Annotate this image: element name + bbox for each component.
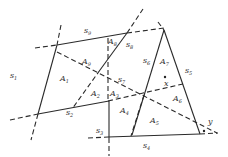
dashed-s4-ext-right <box>200 133 218 134</box>
label-A1: A1 <box>59 74 69 84</box>
label-s5: s5 <box>185 66 192 76</box>
dashed-s8-ext-top <box>127 9 143 33</box>
dashed-s2-ext-left <box>10 114 38 120</box>
label-s3: s3 <box>96 126 103 136</box>
label-point-x: x <box>164 79 169 88</box>
segment-s1 <box>38 45 57 114</box>
label-s6: s6 <box>143 56 151 66</box>
label-A3: A3 <box>109 89 119 99</box>
dashed-s1-ext-top <box>57 25 61 45</box>
label-s7: s7 <box>118 75 126 85</box>
diagram-canvas: s1 s2 s3 s4 s5 s6 s7 s8 s9 A1 A2 A3 A4 A… <box>0 0 228 157</box>
segment-s2 <box>38 101 109 114</box>
point-x <box>164 76 166 78</box>
dashed-s9-ext-right <box>127 28 164 33</box>
dashed-s1-ext-bottom <box>31 114 38 140</box>
solid-edges <box>38 30 200 138</box>
label-s2: s2 <box>66 108 73 118</box>
label-point-y: y <box>207 117 213 126</box>
dashed-s7 <box>57 52 217 133</box>
label-s8: s8 <box>126 40 133 50</box>
arrangement-svg: s1 s2 s3 s4 s5 s6 s7 s8 s9 A1 A2 A3 A4 A… <box>0 0 228 157</box>
label-A4: A4 <box>119 106 129 116</box>
label-A6: A6 <box>172 94 183 104</box>
segment-s4 <box>108 134 200 137</box>
label-A9: A9 <box>81 57 92 67</box>
label-s1: s1 <box>10 71 17 81</box>
label-A8: A8 <box>107 37 117 47</box>
dashed-s3-ext-left <box>88 137 108 138</box>
label-s9: s9 <box>84 26 92 36</box>
label-A5: A5 <box>149 116 159 126</box>
point-y <box>203 130 205 132</box>
label-s4: s4 <box>143 141 150 151</box>
label-A2: A2 <box>90 89 100 99</box>
segment-s5 <box>164 30 200 134</box>
dashed-s9-ext-left <box>35 45 57 48</box>
label-A7: A7 <box>159 57 170 67</box>
